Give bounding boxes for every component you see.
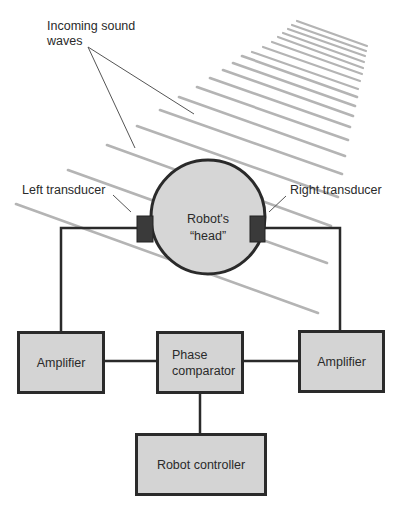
right-transducer: [250, 216, 265, 242]
sound-wave-line: [210, 78, 350, 127]
left-amplifier-label: Amplifier: [37, 355, 86, 371]
left-transducer-label: Left transducer: [22, 183, 105, 198]
right-amplifier-box: Amplifier: [298, 330, 385, 393]
incoming-sound-waves-label: Incoming sound waves: [47, 19, 135, 49]
sound-wave-line: [272, 42, 362, 74]
sound-wave-line: [252, 52, 358, 89]
label-line-1: Incoming sound: [47, 19, 135, 34]
sound-wave-line: [263, 47, 360, 81]
right-amplifier-label: Amplifier: [317, 354, 366, 370]
phase-comparator-label: Phase comparator: [172, 347, 235, 379]
phase-comparator-line-2: comparator: [172, 363, 235, 379]
phase-comparator-box: Phase comparator: [156, 331, 244, 394]
left-transducer-pointer: [113, 195, 131, 212]
figure-caption-cutoff: [10, 506, 13, 514]
left-transducer: [137, 216, 153, 242]
head-label-line-1: Robot's: [168, 211, 248, 228]
right-transducer-label: Right transducer: [290, 183, 382, 198]
left-amplifier-box: Amplifier: [17, 331, 105, 394]
sound-wave-line: [233, 63, 355, 106]
phase-comparator-line-1: Phase: [172, 347, 235, 363]
head-label-line-2: “head”: [168, 228, 248, 245]
label-line-2: waves: [47, 34, 135, 49]
diagram-canvas: Incoming sound waves Left transducer Rig…: [0, 0, 402, 514]
sound-wave-line: [278, 37, 363, 68]
sound-wave-line: [223, 70, 353, 116]
robot-controller-box: Robot controller: [135, 433, 267, 496]
robot-controller-label: Robot controller: [157, 457, 245, 473]
robot-head-label: Robot's “head”: [168, 211, 248, 245]
sound-wave-line: [242, 56, 357, 97]
